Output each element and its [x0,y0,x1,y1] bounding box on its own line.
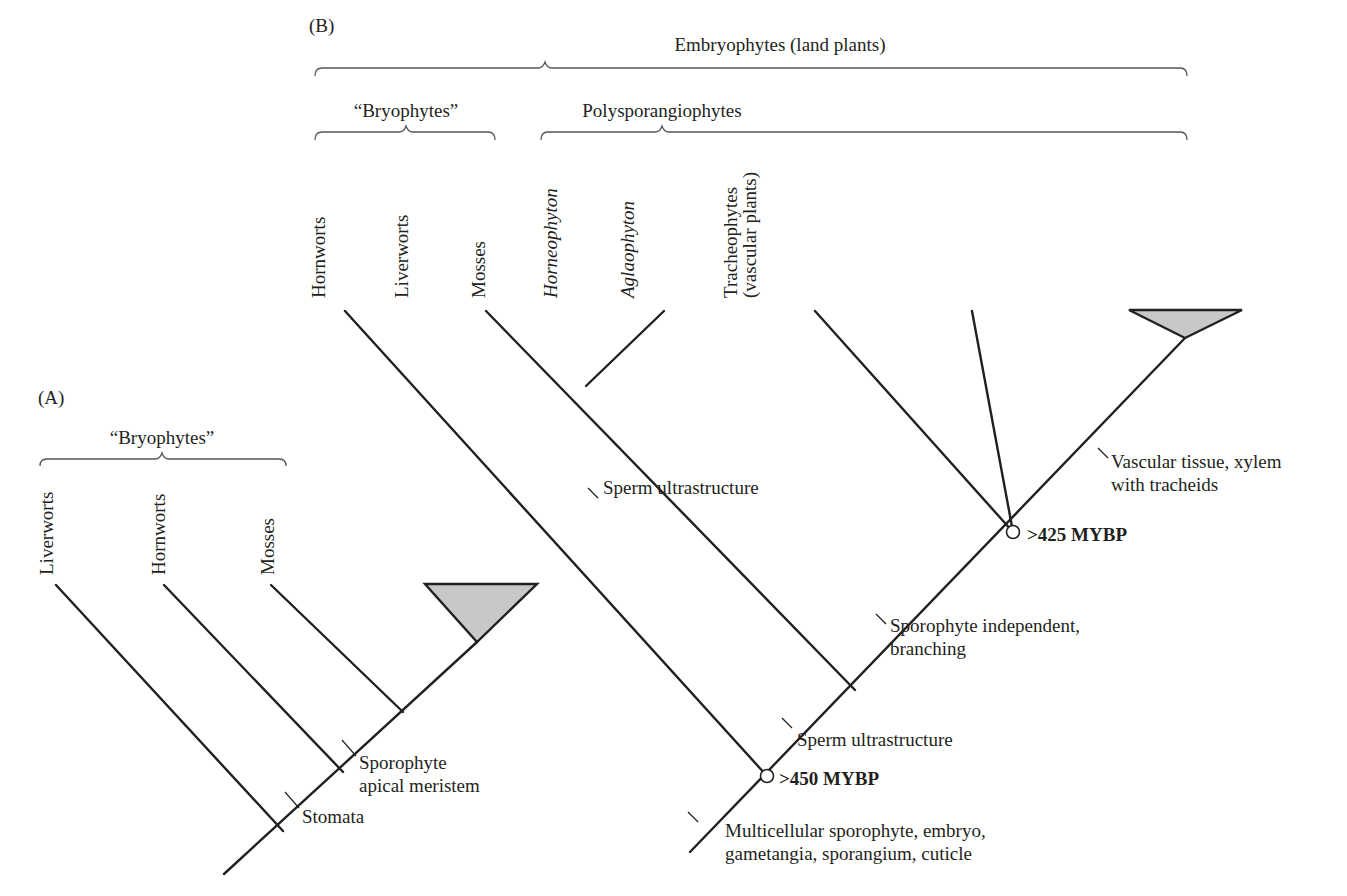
panel-a-branch-mosses [271,585,403,712]
panel-b-date-425: >425 MYBP [1027,524,1127,545]
panel-b-embryophytes-brace [315,62,1187,76]
panel-b-char-vascular-1: Vascular tissue, xylem [1111,451,1282,472]
cladogram-figure: (A) “Bryophytes” Liverworts Hornworts Mo… [0,0,1347,896]
panel-b-bryophytes-brace [315,126,495,140]
panel-a-branch-liverworts [56,585,283,831]
panel-a-taxon-hornworts: Hornworts [148,494,169,575]
panel-b-taxon-vascular-plants: (vascular plants) [739,172,761,298]
panel-a-char-apical-meristem: apical meristem [359,775,480,796]
panel-a-bryophytes-label: “Bryophytes” [110,427,214,448]
panel-b-taxon-horneophyton: Horneophyton [540,188,561,299]
panel-b-taxon-hornworts: Hornworts [308,217,329,298]
panel-b-tick-multicellular [688,812,698,822]
panel-b-label: (B) [309,15,334,37]
panel-b-embryophytes-label: Embryophytes (land plants) [674,34,885,56]
panel-b-bryophytes-label: “Bryophytes” [354,100,458,121]
panel-a-tick-stomata [285,792,299,808]
panel-b-char-sperm-lower: Sperm ultrastructure [797,729,953,750]
panel-a-tree [56,584,537,874]
panel-b-char-vascular-2: with tracheids [1111,474,1218,495]
panel-a-clade-triangle [425,584,537,642]
panel-b-char-sperm-upper: Sperm ultrastructure [603,477,759,498]
panel-a-taxon-liverworts: Liverworts [36,492,57,575]
panel-b-char-multicellular-1: Multicellular sporophyte, embryo, [725,820,986,841]
panel-b-node-425 [1007,526,1020,539]
panel-b-taxon-mosses: Mosses [468,241,489,298]
panel-b-polysporangiophytes-label: Polysporangiophytes [582,100,741,121]
panel-a-branch-hornworts [164,585,343,772]
panel-b-node-450 [761,770,774,783]
panel-b-polysporangiophytes-brace [541,126,1187,140]
panel-b-tick-sperm-upper [588,488,598,498]
panel-b-taxon-aglaophyton: Aglaophyton [617,201,638,300]
panel-b-branch-horneophyton [815,311,1013,532]
panel-a-bryophytes-brace [40,453,286,466]
panel-b-char-multicellular-2: gametangia, sporangium, cuticle [725,843,972,864]
panel-a-taxon-mosses: Mosses [257,518,278,575]
panel-b-tick-sperm-lower [782,718,792,728]
panel-b-taxon-tracheophytes: Tracheophytes [720,187,741,298]
panel-a-char-stomata: Stomata [302,806,365,827]
panel-b-char-sporophyte-2: branching [890,638,966,659]
panel-a-tick-apical [342,740,356,756]
panel-a-char-sporophyte: Sporophyte [359,752,447,773]
panel-b-branch-mosses [586,311,664,386]
panel-b-taxon-liverworts: Liverworts [391,215,412,298]
panel-b-branch-liverworts [486,311,855,690]
panel-a-label: (A) [38,387,64,409]
panel-b-tick-sporophyte [876,614,886,624]
panel-b-tick-vascular [1098,448,1108,458]
panel-b-char-sporophyte-1: Sporophyte independent, [890,615,1080,636]
panel-b-branch-aglaophyton [972,311,1013,532]
panel-b-clade-triangle [1129,310,1242,338]
panel-b-date-450: >450 MYBP [779,768,879,789]
